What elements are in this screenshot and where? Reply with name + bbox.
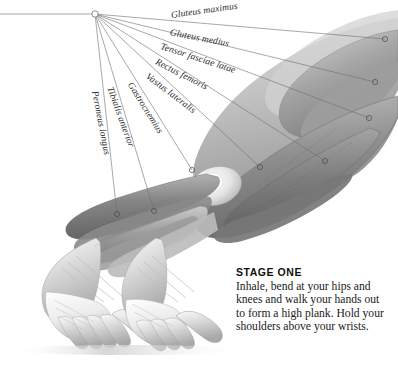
stage-caption: STAGE ONE Inhale, bend at your hips and … [236, 266, 388, 333]
caption-title: STAGE ONE [236, 266, 388, 278]
caption-body: Inhale, bend at your hips and knees and … [236, 280, 388, 333]
illustration-page: Gluteus maximus Gluteus medius Tensor fa… [0, 0, 398, 367]
leader-hub-marker [92, 11, 98, 17]
ground-shadow [10, 345, 250, 355]
